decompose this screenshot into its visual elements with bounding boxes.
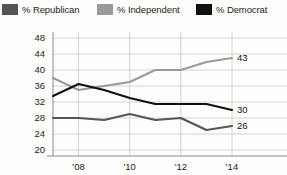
legend-item-republican: % Republican: [2, 4, 79, 15]
legend-item-independent: % Independent: [97, 4, 180, 15]
legend-item-democrat: % Democrat: [196, 4, 267, 15]
y-tick-label: 40: [34, 65, 45, 75]
legend-swatch-republican: [2, 4, 18, 15]
x-tick-label: '12: [175, 162, 187, 172]
chart-root: % Republican % Independent % Democrat 20…: [0, 0, 287, 175]
x-tick-label: '14: [226, 162, 238, 172]
y-tick-label: 24: [34, 129, 45, 139]
plot-area: 2024283236404448 '08'10'12'14 433026: [0, 24, 287, 175]
series-end-label: 26: [237, 121, 248, 131]
axis-lines: [47, 32, 287, 156]
legend-label-democrat: % Democrat: [216, 4, 267, 15]
gridlines: [53, 38, 287, 150]
x-tick-label: '10: [124, 162, 136, 172]
y-tick-label: 32: [34, 97, 45, 107]
x-axis-labels: '08'10'12'14: [0, 24, 287, 44]
legend-swatch-independent: [97, 4, 113, 15]
legend-label-independent: % Independent: [117, 4, 180, 15]
series-end-label: 43: [237, 53, 248, 63]
y-tick-label: 44: [34, 49, 45, 59]
y-tick-label: 28: [34, 113, 45, 123]
series-end-label: 30: [237, 105, 248, 115]
series-lines: [53, 58, 232, 130]
x-gridlines: [79, 32, 232, 156]
y-tick-label: 36: [34, 81, 45, 91]
legend-label-republican: % Republican: [22, 4, 79, 15]
x-tick-label: '08: [72, 162, 84, 172]
chart-legend: % Republican % Independent % Democrat: [0, 4, 287, 22]
y-tick-label: 20: [34, 145, 45, 155]
legend-swatch-democrat: [196, 4, 212, 15]
